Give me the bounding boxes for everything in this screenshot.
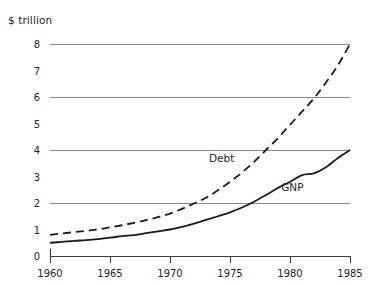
series-lines — [50, 44, 350, 243]
x-tick-label-1975: 1975 — [217, 268, 242, 279]
y-tick-label-0: 0 — [34, 251, 40, 262]
y-axis-tick-labels: 012345678 — [34, 39, 40, 262]
y-tick-label-3: 3 — [34, 172, 40, 183]
series-line-gnp — [50, 150, 350, 243]
x-axis-tick-labels: 196019651970197519801985 — [37, 268, 362, 279]
gridlines — [50, 44, 350, 203]
y-tick-label-6: 6 — [34, 92, 40, 103]
y-axis-title: $ trillion — [8, 14, 52, 26]
series-line-debt — [50, 44, 350, 235]
chart-container: 196019651970197519801985 012345678 DebtG… — [0, 0, 371, 285]
x-tick-label-1985: 1985 — [337, 268, 362, 279]
y-tick-label-2: 2 — [34, 198, 40, 209]
y-tick-label-8: 8 — [34, 39, 40, 50]
x-tick-label-1980: 1980 — [277, 268, 302, 279]
axes — [50, 249, 350, 256]
series-label-gnp: GNP — [281, 181, 303, 193]
x-tick-label-1960: 1960 — [37, 268, 62, 279]
y-tick-label-7: 7 — [34, 66, 40, 77]
y-tick-label-5: 5 — [34, 119, 40, 130]
y-tick-label-4: 4 — [34, 145, 40, 156]
x-tick-label-1965: 1965 — [97, 268, 122, 279]
x-axis-ticks — [50, 256, 350, 263]
y-tick-label-1: 1 — [34, 225, 40, 236]
series-annotations: DebtGNP — [209, 152, 304, 193]
series-label-debt: Debt — [209, 152, 234, 164]
line-chart: 196019651970197519801985 012345678 DebtG… — [0, 0, 371, 285]
x-tick-label-1970: 1970 — [157, 268, 182, 279]
